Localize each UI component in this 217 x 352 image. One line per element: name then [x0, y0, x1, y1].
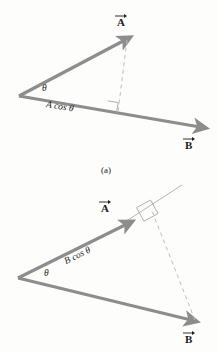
vector-arrow-overbar-icon — [185, 330, 192, 335]
panel-a-caption: (a) — [101, 166, 111, 175]
panel-b-vector-b-label: B — [185, 330, 192, 345]
panel-b-vector-a-label: A — [101, 199, 109, 214]
vector-projection-figure — [0, 0, 217, 352]
panel-a-vector-b-label: B — [185, 136, 192, 151]
panel-a-angle-label: θ — [42, 84, 47, 94]
panel-a-vector-a-label: A — [117, 13, 125, 28]
vector-arrow-overbar-icon — [101, 199, 109, 204]
panel-b-angle-label: θ — [44, 269, 49, 279]
vector-arrow-overbar-icon — [117, 13, 125, 18]
vector-arrow-overbar-icon — [185, 136, 192, 141]
